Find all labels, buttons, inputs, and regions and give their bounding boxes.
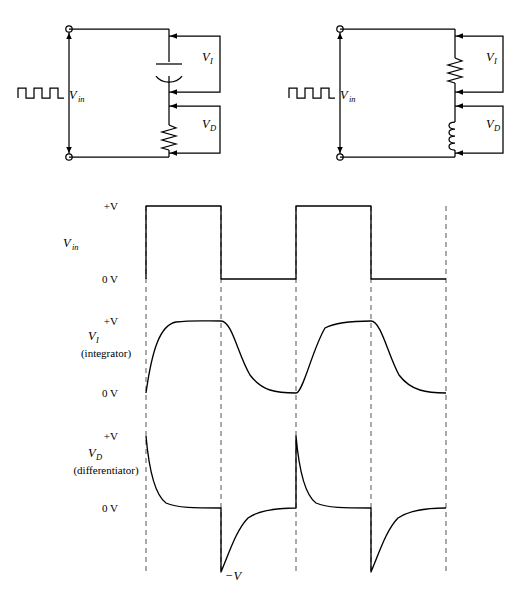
vd-panel: +V 0 V −V V D (differentiator)	[73, 430, 446, 583]
resistor-icon	[162, 125, 176, 150]
figure-root: V in V I	[0, 0, 523, 606]
vin-ylabel-zero: 0 V	[102, 273, 118, 285]
rl-top-arrow-icon	[337, 33, 343, 39]
vin-row-sublabel: in	[72, 242, 79, 252]
vi-ylabel-high: +V	[104, 315, 118, 327]
rl-vd-arrow-top-icon	[456, 103, 463, 109]
rc-circuit: V in V I	[18, 26, 220, 160]
vd-ylabel-high: +V	[104, 430, 118, 442]
vd-row-caption: (differentiator)	[73, 464, 138, 477]
rc-vi-arrow-top-icon	[170, 33, 177, 39]
rc-source-label: V	[69, 88, 78, 102]
vin-panel: +V 0 V V in	[63, 200, 446, 285]
vin-waveform	[146, 206, 446, 279]
vi-row-sublabel: I	[95, 335, 100, 345]
vd-row-sublabel: D	[95, 452, 103, 462]
inductor-icon	[449, 122, 455, 150]
vi-panel: +V 0 V V I (integrator)	[81, 315, 446, 399]
rl-circuit: V in V I	[289, 26, 503, 160]
rl-vi-sublabel: I	[493, 56, 498, 66]
vd-ylabel-zero: 0 V	[102, 502, 118, 514]
rc-vd-arrow-bottom-icon	[170, 150, 177, 156]
rc-vd-sublabel: D	[209, 123, 217, 133]
vd-ylabel-low: −V	[225, 569, 242, 583]
rl-vi-arrow-top-icon	[456, 33, 463, 39]
vin-ylabel-high: +V	[104, 200, 118, 212]
rc-source-sublabel: in	[78, 94, 85, 104]
resistor-icon-right	[448, 58, 462, 83]
rl-source-sublabel: in	[349, 94, 356, 104]
vin-row-label: V	[63, 236, 72, 250]
rc-vi-sublabel: I	[209, 56, 214, 66]
vi-ylabel-zero: 0 V	[102, 387, 118, 399]
rc-vi-arrow-bottom-icon	[170, 89, 177, 95]
rl-source-label: V	[340, 88, 349, 102]
square-wave-icon-right	[289, 88, 335, 98]
rl-vd-sublabel: D	[493, 123, 501, 133]
rc-top-arrow-icon	[66, 33, 72, 39]
rl-bottom-arrow-icon	[337, 147, 343, 153]
vi-waveform	[146, 321, 446, 393]
square-wave-icon	[18, 88, 64, 98]
rl-vd-arrow-bottom-icon	[456, 150, 463, 156]
rl-vi-arrow-bottom-icon	[456, 89, 463, 95]
rc-vd-arrow-top-icon	[170, 103, 177, 109]
vi-row-caption: (integrator)	[81, 347, 131, 360]
rc-bottom-arrow-icon	[66, 147, 72, 153]
